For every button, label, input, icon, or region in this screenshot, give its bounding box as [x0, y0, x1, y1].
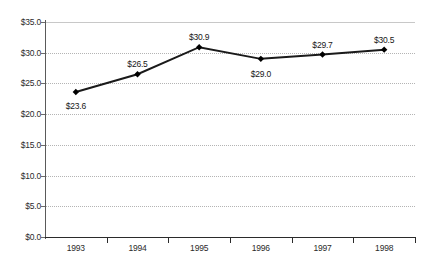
- data-point-marker: [134, 71, 140, 77]
- x-tick-mark: [168, 237, 169, 243]
- data-point-label: $30.9: [189, 33, 209, 42]
- series-markers: [73, 44, 388, 95]
- data-point-label: $23.6: [66, 102, 86, 111]
- data-point-marker: [258, 56, 264, 62]
- x-tick-mark: [292, 237, 293, 243]
- x-tick-mark: [415, 237, 416, 243]
- data-point-label: $30.5: [374, 36, 394, 45]
- data-point-label: $26.5: [127, 60, 147, 69]
- x-tick-mark: [230, 237, 231, 243]
- data-point-label: $29.7: [312, 41, 332, 50]
- series-line: [76, 47, 384, 92]
- data-point-marker: [381, 46, 387, 52]
- data-point-label: $29.0: [251, 70, 271, 79]
- data-point-marker: [319, 51, 325, 57]
- x-tick-mark: [353, 237, 354, 243]
- data-series-layer: [0, 0, 436, 274]
- data-point-marker: [73, 89, 79, 95]
- line-chart: $35.0$30.0$25.0$20.0$15.0$10.0$5.0$0.0 1…: [0, 0, 436, 274]
- x-tick-mark: [107, 237, 108, 243]
- data-point-marker: [196, 44, 202, 50]
